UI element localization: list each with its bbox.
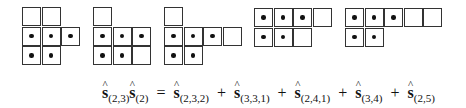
- dot-icon: [261, 15, 266, 20]
- filled-cell: [113, 46, 132, 65]
- schur-function-term: ^s: [234, 84, 240, 102]
- filled-cell: [345, 8, 364, 27]
- dot-icon: [139, 34, 144, 39]
- plus-sign: +: [278, 84, 287, 101]
- subscript: (3,4): [361, 92, 382, 104]
- dot-icon: [171, 34, 176, 39]
- filled-cell: [42, 27, 61, 46]
- filled-cell: [184, 46, 203, 65]
- dot-icon: [29, 34, 34, 39]
- filled-cell: [22, 46, 41, 65]
- empty-cell: [42, 7, 61, 26]
- empty-cell: [423, 8, 442, 27]
- dot-icon: [352, 35, 357, 40]
- dot-icon: [261, 35, 266, 40]
- dot-icon: [191, 34, 196, 39]
- empty-cell: [404, 8, 423, 27]
- filled-cell: [61, 27, 80, 46]
- dot-icon: [210, 34, 215, 39]
- filled-cell: [254, 8, 273, 27]
- schur-function-term: ^s: [102, 84, 108, 102]
- filled-cell: [203, 27, 222, 46]
- filled-cell: [274, 28, 293, 47]
- empty-cell: [22, 7, 41, 26]
- schur-function-term: ^s: [129, 84, 135, 102]
- empty-cell: [164, 7, 183, 26]
- filled-cell: [42, 46, 61, 65]
- filled-cell: [345, 28, 364, 47]
- subscript: (3,3,1): [240, 92, 269, 104]
- dot-icon: [120, 53, 125, 58]
- subscript: (2,3): [108, 92, 129, 104]
- empty-cell: [313, 8, 332, 27]
- filled-cell: [293, 8, 312, 27]
- dot-icon: [191, 53, 196, 58]
- schur-function-term: ^s: [173, 84, 179, 102]
- dot-icon: [391, 15, 396, 20]
- filled-cell: [274, 8, 293, 27]
- filled-cell: [254, 28, 273, 47]
- filled-cell: [132, 27, 151, 46]
- dot-icon: [352, 15, 357, 20]
- subscript: (2,4,1): [301, 92, 330, 104]
- dot-icon: [49, 34, 54, 39]
- plus-sign: +: [391, 84, 400, 101]
- subscript: (2,3,2): [180, 92, 209, 104]
- empty-cell: [293, 28, 312, 47]
- schur-function-term: ^s: [295, 84, 301, 102]
- filled-cell: [384, 8, 403, 27]
- dot-icon: [120, 34, 125, 39]
- dot-icon: [68, 34, 73, 39]
- dot-icon: [171, 53, 176, 58]
- empty-cell: [132, 46, 151, 65]
- schur-function-term: ^s: [355, 84, 361, 102]
- dot-icon: [281, 35, 286, 40]
- dot-icon: [281, 15, 286, 20]
- dot-icon: [372, 35, 377, 40]
- filled-cell: [93, 27, 112, 46]
- filled-cell: [365, 28, 384, 47]
- plus-sign: +: [217, 84, 226, 101]
- subscript: (2,5): [414, 92, 435, 104]
- empty-cell: [223, 27, 242, 46]
- empty-cell: [93, 7, 112, 26]
- schur-product-formula: ^s(2,3)^s(2) = ^s(2,3,2) + ^s(3,3,1) + ^…: [102, 84, 435, 107]
- dot-icon: [300, 15, 305, 20]
- filled-cell: [113, 27, 132, 46]
- plus-sign: +: [338, 84, 347, 101]
- filled-cell: [184, 27, 203, 46]
- filled-cell: [22, 27, 41, 46]
- filled-cell: [93, 46, 112, 65]
- filled-cell: [164, 27, 183, 46]
- subscript: (2): [136, 92, 149, 104]
- schur-function-term: ^s: [408, 84, 414, 102]
- dot-icon: [372, 15, 377, 20]
- dot-icon: [100, 53, 105, 58]
- equals-sign: =: [156, 84, 165, 101]
- dot-icon: [100, 34, 105, 39]
- filled-cell: [164, 46, 183, 65]
- dot-icon: [49, 53, 54, 58]
- filled-cell: [365, 8, 384, 27]
- dot-icon: [29, 53, 34, 58]
